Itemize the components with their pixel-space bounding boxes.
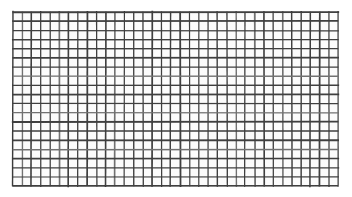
wire-mesh-photo [0,0,352,197]
image-canvas: Close-up photograph of a dark wire mesh … [0,0,352,197]
wire-mesh-svg [0,0,352,197]
film-grain-overlay [13,12,338,186]
